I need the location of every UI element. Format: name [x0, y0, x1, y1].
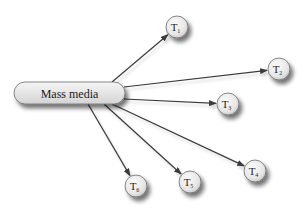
target-node-t1: T1: [166, 16, 188, 38]
target-node-t5: T5: [179, 171, 201, 193]
edge-to-t1: [112, 35, 168, 82]
mass-media-node: Mass media: [14, 82, 125, 104]
target-node-t2: T2: [268, 58, 290, 80]
edges: [88, 35, 267, 176]
target-nodes: T1T2T3T4T5T6: [125, 16, 290, 197]
mass-media-label: Mass media: [41, 87, 99, 101]
edge-to-t5: [104, 104, 181, 174]
target-node-t6: T6: [125, 175, 147, 197]
edge-to-t2: [124, 70, 267, 87]
edge-to-t6: [88, 104, 130, 176]
mass-media-diagram: Mass media T1T2T3T4T5T6: [0, 0, 304, 212]
target-node-t3: T3: [217, 93, 239, 115]
target-node-t4: T4: [244, 160, 266, 182]
edge-to-t3: [124, 99, 216, 103]
